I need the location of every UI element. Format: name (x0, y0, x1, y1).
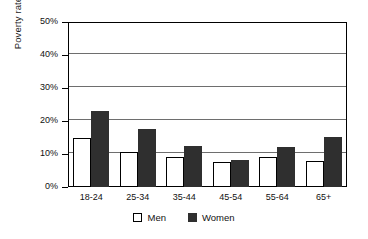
bar-group-65+ (301, 22, 348, 187)
bar-women-55-64 (277, 147, 295, 187)
legend-item-men: Men (133, 212, 165, 223)
y-axis-label-10: 10% (18, 149, 58, 158)
bar-group-18-24 (68, 22, 115, 187)
y-axis-label-30: 30% (18, 83, 58, 92)
poverty-rate-bar-chart: Poverty rate 0%10%20%30%40%50% 18-2425-3… (0, 0, 368, 239)
bar-women-35-44 (184, 146, 202, 187)
bar-men-35-44 (166, 157, 184, 187)
bar-group-45-54 (208, 22, 255, 187)
legend-item-women: Women (188, 212, 235, 223)
y-tick-0 (62, 187, 68, 188)
bar-men-45-54 (213, 162, 231, 187)
bars-layer (68, 22, 347, 187)
y-axis-label-50: 50% (18, 17, 58, 26)
chart-legend: Men Women (0, 212, 368, 223)
bar-women-65+ (324, 137, 342, 187)
legend-swatch-women-icon (188, 213, 197, 222)
legend-label-women: Women (202, 212, 235, 223)
y-axis-title: Poverty rate (12, 0, 26, 78)
bar-men-25-34 (120, 152, 138, 187)
y-axis-label-40: 40% (18, 50, 58, 59)
legend-swatch-men-icon (133, 213, 142, 222)
x-axis-label-65+: 65+ (294, 192, 354, 202)
bar-group-55-64 (254, 22, 301, 187)
bar-women-18-24 (91, 111, 109, 187)
legend-label-men: Men (147, 212, 165, 223)
bar-group-35-44 (161, 22, 208, 187)
bar-men-65+ (306, 161, 324, 187)
bar-men-55-64 (259, 157, 277, 187)
y-axis-label-20: 20% (18, 116, 58, 125)
bar-women-25-34 (138, 129, 156, 187)
y-axis-label-0: 0% (18, 182, 58, 191)
bar-group-25-34 (115, 22, 162, 187)
bar-women-45-54 (231, 160, 249, 187)
bar-men-18-24 (73, 138, 91, 188)
